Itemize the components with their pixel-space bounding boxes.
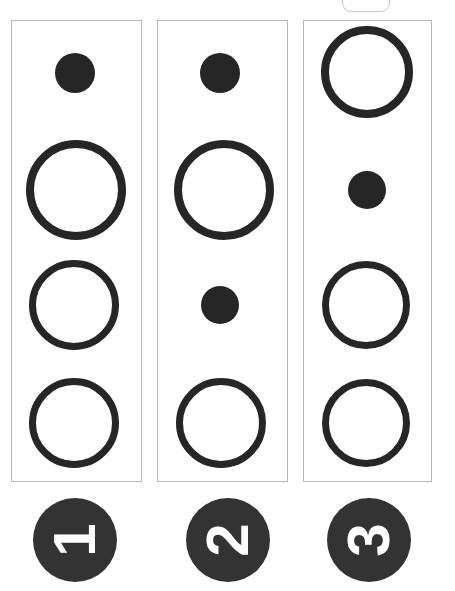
filled-circle-mark[interactable] <box>348 171 386 209</box>
open-circle-mark[interactable] <box>26 140 126 240</box>
open-circle-mark[interactable] <box>322 261 410 349</box>
panel-column-2[interactable] <box>157 20 288 482</box>
column-number-badge: 3 <box>327 498 411 582</box>
column-number-label: 1 <box>45 523 105 556</box>
column-number-label: 3 <box>339 523 399 556</box>
panel-column-3[interactable] <box>303 20 432 482</box>
filled-circle-mark[interactable] <box>55 53 95 93</box>
filled-circle-mark[interactable] <box>201 286 239 324</box>
panel-column-1[interactable] <box>11 20 142 482</box>
open-circle-mark[interactable] <box>29 378 119 468</box>
open-circle-mark[interactable] <box>174 140 274 240</box>
open-circle-mark[interactable] <box>176 378 266 468</box>
column-number-badge: 2 <box>186 498 270 582</box>
open-circle-mark[interactable] <box>322 379 410 467</box>
clipped-rounded-tab <box>342 0 390 12</box>
open-circle-mark[interactable] <box>321 26 413 118</box>
answer-sheet-canvas: 123 <box>0 0 455 591</box>
column-number-label: 2 <box>198 523 258 556</box>
column-number-badge: 1 <box>33 498 117 582</box>
filled-circle-mark[interactable] <box>200 53 240 93</box>
open-circle-mark[interactable] <box>29 260 119 350</box>
